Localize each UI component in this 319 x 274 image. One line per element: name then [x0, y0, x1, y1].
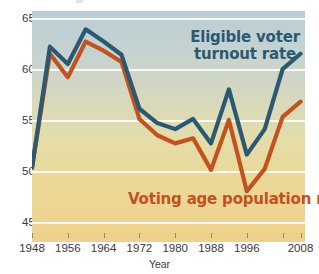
x-tick-1996: [247, 233, 248, 238]
series-label-line-1: Eligible voter: [184, 29, 306, 46]
x-tick-label-1980: 1980: [162, 242, 188, 254]
x-tick-2004: [283, 233, 284, 238]
x-tick-label-1948: 1948: [19, 242, 45, 254]
series-label-voting-age-population-rate: Voting age population rate*: [128, 190, 308, 208]
series-label-eligible-voter-turnout-rate: Eligible voter turnout rate: [184, 29, 306, 63]
x-tick-label-2008: 2008: [288, 242, 314, 254]
x-tick-1972: [139, 233, 140, 238]
x-tick-label-1964: 1964: [91, 242, 117, 254]
series-label-line-2: turnout rate: [184, 46, 306, 63]
x-tick-1988: [211, 233, 212, 238]
x-tick-1956: [68, 233, 69, 238]
x-tick-label-1988: 1988: [198, 242, 224, 254]
x-axis-title: Year: [0, 258, 319, 270]
x-tick-1980: [175, 233, 176, 238]
top-crop-mark: [76, 0, 83, 3]
x-tick-1948: [32, 233, 33, 238]
x-tick-2008: [301, 233, 302, 238]
x-tick-label-1996: 1996: [234, 242, 260, 254]
x-tick-1964: [104, 233, 105, 238]
x-tick-label-1972: 1972: [127, 242, 153, 254]
x-axis-band: [32, 233, 305, 242]
chart-figure: 65 60 55 50 45 1948 1956 1964 1972 1980 …: [0, 0, 319, 274]
x-tick-label-1956: 1956: [55, 242, 81, 254]
line-voting-age-population-rate: [32, 42, 301, 192]
